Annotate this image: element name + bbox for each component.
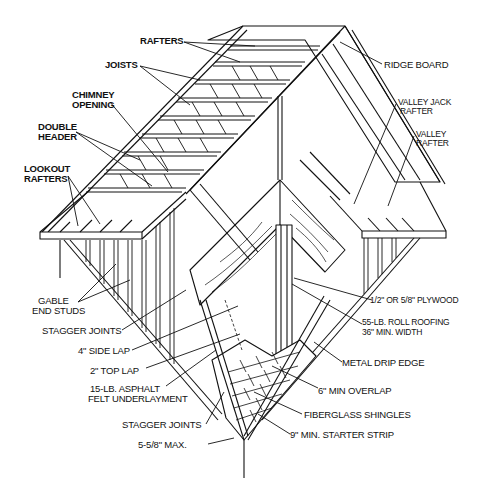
label-roll-roofing-line1: 55-LB. ROLL ROOFING — [362, 318, 450, 327]
label-valley-rafter-line2: RAFTER — [416, 139, 449, 148]
label-rafters: RAFTERS — [140, 36, 183, 46]
label-starter-strip: 9" MIN. STARTER STRIP — [290, 430, 394, 440]
label-double-header-line2: HEADER — [38, 132, 77, 142]
label-side-lap: 4" SIDE LAP — [78, 346, 130, 356]
label-joists: JOISTS — [105, 60, 138, 70]
label-felt-underlayment-line2: FELT UNDERLAYMENT — [88, 394, 188, 404]
label-metal-drip-edge: METAL DRIP EDGE — [342, 358, 424, 368]
label-gable-end-studs-line2: END STUDS — [32, 306, 85, 316]
label-stagger-joints-lower: STAGGER JOINTS — [122, 420, 201, 430]
label-top-lap: 2" TOP LAP — [90, 366, 139, 376]
label-min-overlap: 6" MIN OVERLAP — [318, 386, 391, 396]
label-fiberglass-shingles: FIBERGLASS SHINGLES — [304, 410, 411, 420]
label-roll-roofing-line2: 36" MIN. WIDTH — [362, 328, 422, 337]
label-valley-jack-rafter-line2: RAFTER — [400, 107, 433, 116]
label-max-exposure: 5-5/8" MAX. — [138, 440, 187, 450]
label-lookout-rafters-line2: RAFTERS — [24, 174, 67, 184]
label-ridge-board: RIDGE BOARD — [384, 60, 448, 70]
roof-framing-diagram: RAFTERS JOISTS CHIMNEY OPENING DOUBLE HE… — [0, 0, 480, 499]
label-plywood: 1/2" OR 5/8" PLYWOOD — [370, 296, 458, 305]
roof-line-drawing — [0, 0, 480, 499]
label-chimney-opening-line2: OPENING — [72, 100, 114, 110]
label-stagger-joints-upper: STAGGER JOINTS — [42, 326, 121, 336]
